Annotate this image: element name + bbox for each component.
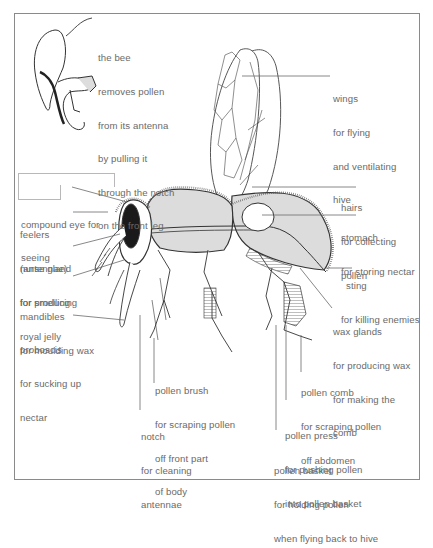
label-title: wax glands — [333, 326, 410, 337]
label-title: stomach — [341, 232, 415, 243]
label-title: proboscis — [20, 344, 81, 355]
inset-leg-drawing — [34, 18, 96, 130]
label-desc: antennae — [141, 499, 192, 510]
caption-line: by pulling it — [98, 153, 174, 164]
inset-caption: the bee removes pollen from its antenna … — [98, 30, 174, 243]
label-title: pollen basket — [274, 465, 378, 476]
caption-line: through the notch — [98, 187, 174, 198]
label-title: pollen brush — [155, 385, 235, 396]
label-pollen-basket: pollen basket for holding pollen when fl… — [274, 443, 378, 548]
label-desc: for sucking up — [20, 378, 81, 389]
label-desc: for holding pollen — [274, 499, 378, 510]
label-proboscis: proboscis for sucking up nectar — [20, 322, 81, 434]
caption-line: the bee — [98, 52, 174, 63]
label-title: mandibles — [20, 311, 94, 322]
eye-label-box-lower — [18, 185, 61, 200]
label-desc: when flying back to hive — [274, 533, 378, 544]
label-title: feelers — [20, 229, 70, 240]
wings-drawing — [210, 49, 280, 210]
label-title: wings — [333, 93, 396, 104]
label-title: notch — [141, 431, 192, 442]
label-desc: nectar — [20, 412, 81, 423]
label-desc: and ventilating — [333, 161, 396, 172]
label-title: nurse gland — [20, 263, 77, 274]
caption-line: removes pollen — [98, 86, 174, 97]
caption-line: from its antenna — [98, 120, 174, 131]
caption-line: on the front leg — [98, 220, 174, 231]
label-title: pollen comb — [301, 387, 381, 398]
label-title: pollen press — [285, 430, 363, 441]
label-desc: for flying — [333, 127, 396, 138]
label-desc: for cleaning — [141, 465, 192, 476]
label-notch: notch for cleaning antennae — [141, 409, 192, 521]
label-title: sting — [341, 280, 420, 291]
